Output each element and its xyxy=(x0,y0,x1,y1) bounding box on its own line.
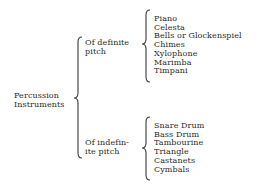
definite-pitch-list: Piano Celesta Bells or Glockenspiel Chim… xyxy=(154,15,242,76)
indefinite-pitch-brace xyxy=(142,117,150,180)
category-label-line2: ite pitch xyxy=(85,148,129,157)
list-item: Timpani xyxy=(154,67,242,76)
root-label: Percussion Instruments xyxy=(14,92,65,109)
root-label-line2: Instruments xyxy=(14,101,65,110)
root-brace xyxy=(74,37,82,158)
indefinite-pitch-list: Snare Drum Bass Drum Tambourine Triangle… xyxy=(154,122,204,174)
definite-pitch-brace xyxy=(142,10,150,82)
category-indefinite-pitch: Of indefin- ite pitch xyxy=(85,139,129,156)
category-label-line2: pitch xyxy=(85,48,129,57)
category-definite-pitch: Of definite pitch xyxy=(85,39,129,56)
list-item: Cymbals xyxy=(154,166,204,175)
